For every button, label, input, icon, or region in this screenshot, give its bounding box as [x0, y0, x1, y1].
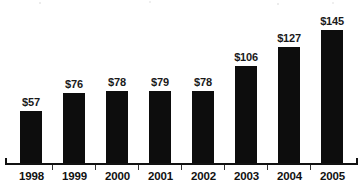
bar-value-label: $79: [140, 76, 180, 88]
bar: [149, 91, 171, 163]
x-axis-tick-label: 2001: [139, 168, 182, 184]
bar: [278, 47, 300, 163]
x-axis-tick-label: 2003: [225, 168, 268, 184]
x-axis-tick: [52, 165, 53, 170]
bar-value-label: $57: [11, 96, 51, 108]
bar: [20, 111, 42, 163]
bar: [321, 30, 343, 163]
bar-group: $145: [321, 0, 363, 163]
x-axis-endcap-left: [5, 158, 7, 164]
bar-value-label: $106: [226, 51, 266, 63]
x-axis-tick: [138, 165, 139, 170]
bar-value-label: $78: [183, 76, 223, 88]
x-axis-tick: [310, 165, 311, 170]
x-axis-tick-label: 2002: [182, 168, 225, 184]
x-axis-tick: [181, 165, 182, 170]
x-axis-category-labels: 19981999200020012002200320042005: [0, 168, 363, 190]
bar-group: $106: [235, 0, 278, 163]
x-axis-tick-label: 1999: [53, 168, 96, 184]
x-axis-tick: [224, 165, 225, 170]
bar: [235, 66, 257, 163]
x-axis-tick-label: 2004: [268, 168, 311, 184]
bar-value-label: $78: [97, 76, 137, 88]
bar-chart: $57$76$78$79$78$106$127$145 199819992000…: [0, 0, 363, 190]
bar-value-label: $76: [54, 78, 94, 90]
plot-area: $57$76$78$79$78$106$127$145: [0, 0, 363, 163]
x-axis-tick-label: 2005: [311, 168, 354, 184]
bar: [63, 93, 85, 163]
x-axis-tick: [95, 165, 96, 170]
bar: [106, 91, 128, 163]
x-axis-tick: [267, 165, 268, 170]
x-axis-tick-label: 2000: [96, 168, 139, 184]
x-axis-endcap-right: [356, 158, 358, 164]
bar-value-label: $127: [269, 32, 309, 44]
bar-value-label: $145: [312, 15, 352, 27]
x-axis-tick-label: 1998: [10, 168, 53, 184]
bar-group: $78: [192, 0, 235, 163]
bar: [192, 91, 214, 163]
